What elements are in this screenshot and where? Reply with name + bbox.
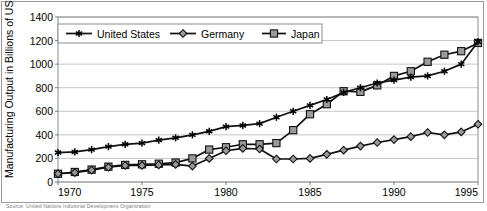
square-marker: [290, 127, 297, 134]
chart-plot-svg: 1400120010008006004002000197019751980198…: [0, 0, 487, 211]
x-axis-tick-label: 1975: [130, 186, 154, 198]
square-marker: [458, 48, 465, 55]
x-axis-tick-label: 1990: [382, 186, 406, 198]
y-axis-tick-label: 200: [35, 152, 53, 164]
y-axis-tick-label: 0: [47, 176, 53, 188]
y-axis-tick-label: 400: [35, 129, 53, 141]
source-note: Source: United Nations Industrial Develo…: [6, 203, 151, 209]
square-marker: [424, 58, 431, 65]
square-marker: [441, 51, 448, 58]
x-axis-tick-label: 1980: [214, 186, 238, 198]
y-axis-tick-label: 800: [35, 82, 53, 94]
y-axis-tick-label: 1200: [30, 35, 54, 47]
legend-label: United States: [97, 28, 160, 40]
y-axis-title: Manufacturing Output in Billions of USD: [3, 0, 15, 178]
square-marker: [270, 30, 277, 37]
y-axis-tick-label: 1400: [30, 11, 54, 23]
y-axis-tick-label: 1000: [30, 58, 54, 70]
y-axis-tick-label: 600: [35, 105, 53, 117]
square-marker: [306, 111, 313, 118]
square-marker: [189, 155, 196, 162]
chart-container: 1400120010008006004002000197019751980198…: [0, 0, 487, 211]
square-marker: [206, 146, 213, 153]
x-axis-tick-label: 1995: [455, 186, 479, 198]
legend-label: Japan: [291, 28, 320, 40]
square-marker: [273, 140, 280, 147]
x-axis-tick-label: 1970: [58, 186, 82, 198]
legend-label: Germany: [201, 28, 245, 40]
x-axis-tick-label: 1985: [298, 186, 322, 198]
